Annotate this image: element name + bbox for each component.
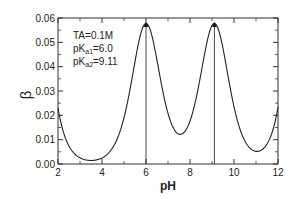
x-axis-ticks: 24681012 — [55, 18, 284, 178]
annotation-pka1: pKa1=6.0 — [73, 43, 113, 55]
x-tick-label: 8 — [187, 167, 193, 178]
buffer-capacity-chart: 0.000.010.020.030.040.050.06 24681012 β … — [0, 0, 297, 199]
x-axis-label: pH — [160, 179, 176, 193]
y-tick-label: 0.03 — [36, 86, 56, 97]
buffer-capacity-curve — [58, 23, 278, 160]
y-axis-ticks: 0.000.010.020.030.040.050.06 — [36, 13, 278, 170]
annotation-pka2: pKa2=9.11 — [73, 56, 118, 68]
y-tick-label: 0.04 — [36, 61, 56, 72]
y-tick-label: 0.05 — [36, 37, 56, 48]
y-tick-label: 0.02 — [36, 110, 56, 121]
y-tick-label: 0.01 — [36, 134, 56, 145]
x-tick-label: 10 — [228, 167, 240, 178]
x-tick-label: 4 — [99, 167, 105, 178]
pka-vertical-lines — [146, 24, 214, 164]
x-tick-label: 2 — [55, 167, 61, 178]
x-tick-label: 12 — [272, 167, 284, 178]
y-axis-label: β — [17, 90, 34, 99]
peak-markers — [144, 22, 217, 27]
parameter-annotation: TA=0.1M pKa1=6.0 pKa2=9.11 — [73, 30, 118, 68]
chart-svg: 0.000.010.020.030.040.050.06 24681012 β … — [0, 0, 297, 199]
y-tick-label: 0.00 — [36, 159, 56, 170]
x-tick-label: 6 — [143, 167, 149, 178]
y-tick-label: 0.06 — [36, 13, 56, 24]
annotation-ta: TA=0.1M — [73, 30, 113, 41]
